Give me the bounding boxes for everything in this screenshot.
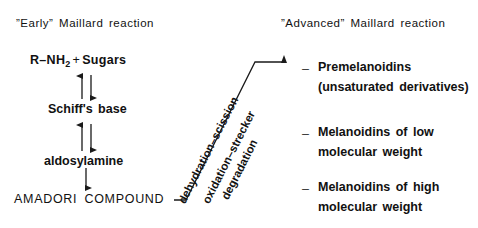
- connector-lines: [0, 0, 478, 228]
- maillard-reaction-diagram: ”Early” Maillard reaction ”Advanced” Mai…: [0, 0, 478, 228]
- arrow-amadori-to-advanced-products: [174, 62, 284, 200]
